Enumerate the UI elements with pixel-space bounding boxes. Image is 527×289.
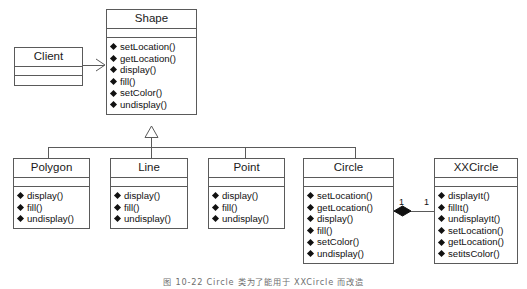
operation-row: setLocation() — [110, 41, 194, 53]
operation-row: undisplay() — [17, 213, 87, 225]
operation-row: setLocation() — [438, 225, 515, 237]
operation-bullet-icon — [307, 204, 314, 211]
operation-bullet-icon — [110, 43, 117, 50]
class-attributes-circle — [304, 178, 393, 187]
class-name-client: Client — [15, 48, 82, 67]
class-attributes-shape — [107, 29, 196, 38]
operation-row: setColor() — [110, 87, 194, 99]
hollow-triangle-icon — [145, 126, 158, 138]
class-box-point[interactable]: Point display() fill() undisplay() — [208, 158, 285, 229]
class-attributes-xxcircle — [435, 178, 517, 187]
operation-bullet-icon — [110, 101, 117, 108]
class-name-shape: Shape — [107, 10, 196, 29]
operation-bullet-icon — [110, 90, 117, 97]
class-box-client[interactable]: Client — [14, 47, 83, 86]
class-operations-polygon: display() fill() undisplay() — [14, 187, 89, 228]
operation-bullet-icon — [438, 239, 445, 246]
class-operations-shape: setLocation() getLocation() display() fi… — [107, 38, 196, 114]
operation-bullet-icon — [307, 215, 314, 222]
operation-bullet-icon — [17, 215, 24, 222]
class-operations-xxcircle: displayIt() fillIt() undisplayIt() setLo… — [435, 187, 517, 263]
operation-row: getLocation() — [110, 53, 194, 65]
operation-row: fill() — [114, 202, 185, 214]
operation-bullet-icon — [438, 250, 445, 257]
operation-row: undisplay() — [114, 213, 185, 225]
operation-row: display() — [114, 190, 185, 202]
class-attributes-line — [111, 178, 187, 187]
operation-row: getLocation() — [307, 202, 391, 214]
operation-row: setLocation() — [307, 190, 391, 202]
operation-row: undisplay() — [212, 213, 282, 225]
operation-row: display() — [212, 190, 282, 202]
multiplicity-circle-side: 1 — [399, 197, 404, 207]
operation-bullet-icon — [110, 66, 117, 73]
class-box-circle[interactable]: Circle setLocation() getLocation() displ… — [303, 158, 394, 264]
operation-bullet-icon — [438, 215, 445, 222]
class-attributes-polygon — [14, 178, 89, 187]
operation-bullet-icon — [114, 215, 121, 222]
filled-diamond-icon — [394, 206, 411, 216]
class-operations-client — [15, 76, 82, 85]
operation-row: fill() — [212, 202, 282, 214]
class-box-xxcircle[interactable]: XXCircle displayIt() fillIt() undisplayI… — [434, 158, 518, 264]
operation-row: setColor() — [307, 236, 391, 248]
class-box-polygon[interactable]: Polygon display() fill() undisplay() — [13, 158, 90, 229]
operation-bullet-icon — [438, 204, 445, 211]
operation-bullet-icon — [17, 192, 24, 199]
operation-row: undisplay() — [110, 99, 194, 111]
class-name-xxcircle: XXCircle — [435, 159, 517, 178]
operation-row: display() — [110, 64, 194, 76]
operation-row: undisplay() — [307, 248, 391, 260]
operation-bullet-icon — [212, 215, 219, 222]
operation-bullet-icon — [212, 204, 219, 211]
operation-row: fill() — [307, 225, 391, 237]
operation-bullet-icon — [307, 250, 314, 257]
operation-row: getLocation() — [438, 236, 515, 248]
operation-bullet-icon — [114, 204, 121, 211]
operation-row: displayIt() — [438, 190, 515, 202]
multiplicity-xxcircle-side: 1 — [424, 197, 429, 207]
class-name-line: Line — [111, 159, 187, 178]
class-name-circle: Circle — [304, 159, 393, 178]
operation-row: fill() — [17, 202, 87, 214]
class-attributes-point — [209, 178, 284, 187]
generalization-shape-subclasses — [48, 137, 355, 158]
operation-bullet-icon — [17, 204, 24, 211]
class-operations-point: display() fill() undisplay() — [209, 187, 284, 228]
operation-bullet-icon — [307, 192, 314, 199]
operation-bullet-icon — [114, 192, 121, 199]
operation-bullet-icon — [212, 192, 219, 199]
operation-bullet-icon — [307, 239, 314, 246]
operation-row: fill() — [110, 76, 194, 88]
figure-caption: 图 10-22 Circle 类为了能用于 XXCircle 而改造 — [0, 277, 527, 288]
class-box-line[interactable]: Line display() fill() undisplay() — [110, 158, 188, 229]
operation-row: display() — [307, 213, 391, 225]
operation-bullet-icon — [110, 55, 117, 62]
operation-row: undisplayIt() — [438, 213, 515, 225]
operation-row: setitsColor() — [438, 248, 515, 260]
operation-bullet-icon — [438, 192, 445, 199]
class-operations-line: display() fill() undisplay() — [111, 187, 187, 228]
class-attributes-client — [15, 67, 82, 76]
class-operations-circle: setLocation() getLocation() display() fi… — [304, 187, 393, 263]
operation-row: display() — [17, 190, 87, 202]
operation-bullet-icon — [110, 78, 117, 85]
class-name-polygon: Polygon — [14, 159, 89, 178]
operation-row: fillIt() — [438, 202, 515, 214]
operation-bullet-icon — [307, 227, 314, 234]
operation-bullet-icon — [438, 227, 445, 234]
class-name-point: Point — [209, 159, 284, 178]
class-box-shape[interactable]: Shape setLocation() getLocation() displa… — [106, 9, 197, 115]
